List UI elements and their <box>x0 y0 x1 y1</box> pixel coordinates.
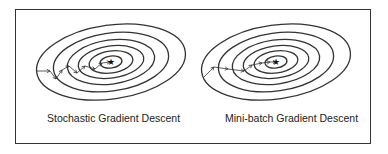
descent-path <box>37 62 110 79</box>
minibatch-label: Mini-batch Gradient Descent <box>225 112 358 124</box>
sgd-contour-plot: ★ <box>32 15 191 109</box>
minimum-star-icon: ★ <box>107 57 115 67</box>
minimum-star-icon: ★ <box>272 57 280 67</box>
sgd-label: Stochastic Gradient Descent <box>47 112 180 124</box>
contour-diagram: ★★ <box>0 0 388 154</box>
minibatch-contour-plot: ★ <box>197 15 356 109</box>
